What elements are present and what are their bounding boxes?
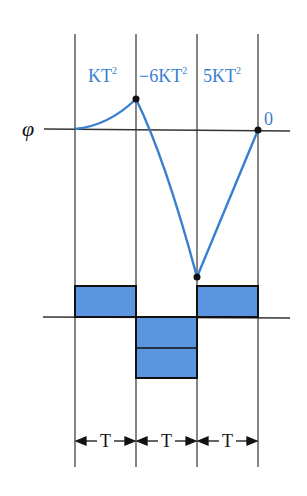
phi-symbol: φ: [22, 116, 34, 141]
end-dot: [255, 127, 262, 134]
interval-label-2: T: [161, 431, 172, 451]
interval-label-1: T: [100, 431, 111, 451]
trough-dot: [194, 274, 201, 281]
vertical-lines: [75, 34, 258, 467]
bar-up-1: [75, 286, 136, 317]
segment-label-2: −6KT2: [139, 65, 187, 86]
phi-curve: [75, 99, 258, 277]
end-label: 0: [264, 109, 273, 129]
segment-label-3: 5KT2: [203, 65, 241, 86]
peak-dot: [133, 96, 140, 103]
segment-label-1: KT2: [88, 65, 117, 86]
interval-label-3: T: [222, 431, 233, 451]
bar-up-3: [197, 286, 258, 317]
bars: [75, 286, 258, 378]
phi-diagram: φ KT2 −6KT2 5KT2 0 T T T: [0, 0, 307, 496]
